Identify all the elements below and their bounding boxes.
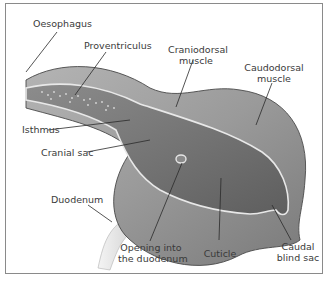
duodenal-opening <box>176 155 186 163</box>
label-duodenum: Duodenum <box>51 194 103 205</box>
stomach-illustration <box>0 0 328 281</box>
label-proventriculus: Proventriculus <box>84 40 152 51</box>
label-cuticle: Cuticle <box>200 248 240 259</box>
label-oesophagus: Oesophagus <box>33 18 92 29</box>
label-caudodorsal-muscle: Caudodorsal muscle <box>244 62 304 84</box>
label-craniodorsal-muscle: Craniodorsal muscle <box>168 44 224 66</box>
label-cranial-sac: Cranial sac <box>41 147 94 158</box>
label-opening-into-duodenum: Opening into the duodenum <box>118 242 184 264</box>
label-isthmus: Isthmus <box>22 124 60 135</box>
label-caudal-blind-sac: Caudal blind sac <box>276 241 320 263</box>
